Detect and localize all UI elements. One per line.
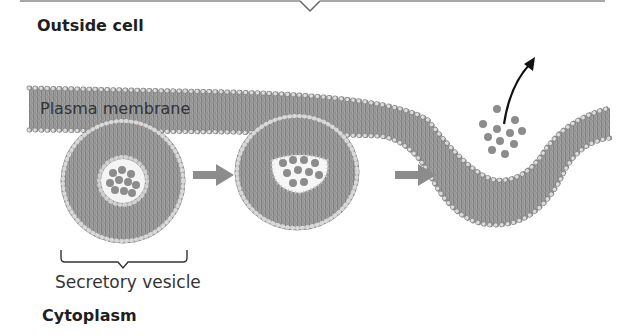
top-frame [20, 1, 605, 11]
gray-arrow-1 [193, 164, 234, 186]
outside-cell-label: Outside cell [37, 16, 144, 35]
docking-vesicle [235, 114, 359, 230]
released-cargo [479, 105, 526, 158]
cytoplasm-label: Cytoplasm [42, 306, 137, 325]
release-arrow [504, 57, 535, 124]
plasma-membrane-label: Plasma membrane [40, 99, 190, 118]
vesicle-bracket [61, 250, 187, 268]
secretory-vesicle-label: Secretory vesicle [55, 272, 201, 292]
secretory-vesicle [61, 119, 185, 243]
